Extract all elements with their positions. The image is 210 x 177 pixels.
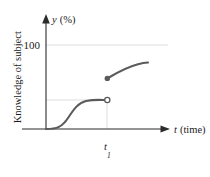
graph-figure: 100 y(%) t(time) t1 Knowledge of subject bbox=[0, 0, 210, 177]
curve-before-t1 bbox=[46, 100, 106, 129]
y-tick-label-100: 100 bbox=[24, 39, 41, 51]
x-axis-unit: (time) bbox=[180, 124, 206, 136]
y-axis-unit: (%) bbox=[60, 14, 76, 26]
x-axis-arrowhead bbox=[161, 125, 171, 132]
plot-area: 100 y(%) t(time) t1 bbox=[0, 0, 210, 177]
y-axis-title: y(%) bbox=[51, 14, 76, 26]
open-endpoint-circle bbox=[105, 97, 110, 102]
y-axis-variable: y bbox=[51, 14, 57, 25]
x-tick-label-t1-subscript: 1 bbox=[107, 150, 111, 159]
x-axis-title: t(time) bbox=[174, 124, 206, 136]
curve-after-t1 bbox=[108, 63, 148, 79]
x-axis-variable: t bbox=[174, 124, 178, 135]
y-axis-arrowhead bbox=[42, 14, 50, 24]
filled-endpoint-dot bbox=[105, 76, 110, 81]
x-tick-label-t1: t1 bbox=[104, 141, 111, 159]
vertical-axis-caption: Knowledge of subject bbox=[13, 12, 24, 142]
